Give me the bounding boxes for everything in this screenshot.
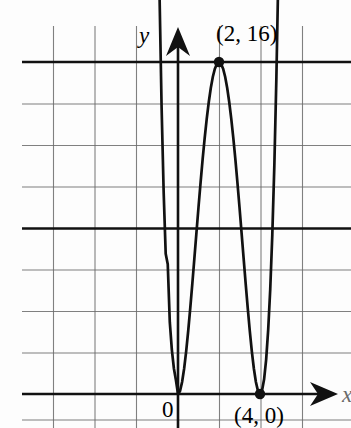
label-right-root: (4, 0) <box>234 404 284 427</box>
graph-figure: y x (2, 16) 0 (4, 0) <box>0 0 351 428</box>
label-local-maximum: (2, 16) <box>216 22 277 45</box>
marker-root-4-0 <box>255 389 265 399</box>
y-axis-label: y <box>139 24 149 47</box>
x-axis-label: x <box>342 383 351 406</box>
graph-canvas <box>0 0 351 428</box>
marker-vertex-2-16 <box>214 57 224 67</box>
grid-horizontal-lines <box>22 104 351 420</box>
label-origin: 0 <box>162 398 174 421</box>
